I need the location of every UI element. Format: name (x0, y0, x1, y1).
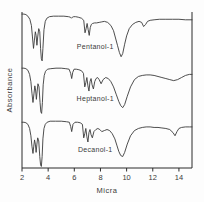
trace-label-heptanol-1: Heptanol-1 (77, 95, 114, 103)
trace-label-decanol-1: Decanol-1 (78, 146, 113, 153)
x-tick-label-6: 6 (72, 173, 76, 182)
x-tick-label-8: 8 (98, 173, 102, 182)
trace-annotations: Pentanol-1Heptanol-1Decanol-1 (77, 43, 114, 153)
trace-decanol-1 (22, 121, 192, 166)
x-axis-ticks (22, 168, 179, 172)
x-tick-label-10: 10 (122, 173, 130, 182)
spectra-traces (22, 14, 192, 166)
ir-spectra-figure: 2468101214 Pentanol-1Heptanol-1Decanol-1… (0, 0, 204, 202)
spectra-plot: 2468101214 Pentanol-1Heptanol-1Decanol-1… (0, 0, 204, 202)
x-tick-label-12: 12 (149, 173, 157, 182)
axis-frame (22, 12, 192, 168)
trace-pentanol-1 (22, 14, 192, 61)
x-tick-label-2: 2 (20, 173, 24, 182)
x-tick-label-14: 14 (175, 173, 183, 182)
x-tick-label-4: 4 (46, 173, 50, 182)
y-axis-title: Absorbance (5, 67, 14, 112)
x-axis-tick-labels: 2468101214 (20, 173, 183, 182)
trace-heptanol-1 (22, 68, 192, 113)
x-axis-title: Micra (97, 186, 118, 195)
plot-frame (22, 12, 192, 168)
trace-label-pentanol-1: Pentanol-1 (77, 43, 114, 50)
